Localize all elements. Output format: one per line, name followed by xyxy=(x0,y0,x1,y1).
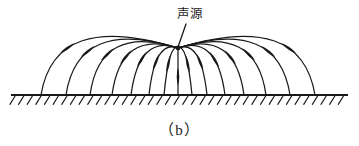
ray-arrowhead xyxy=(137,52,146,67)
ground-hatch-mark xyxy=(62,95,68,104)
ground-hatch-mark xyxy=(209,95,215,104)
ground-hatch-mark xyxy=(122,95,128,104)
ray-arrowhead xyxy=(261,46,275,57)
ray-arrowhead xyxy=(210,52,219,67)
ground-hatch-mark xyxy=(27,95,33,104)
ray-arrowhead xyxy=(197,53,204,70)
ray-arrowhead xyxy=(186,55,190,73)
sound-ray-path xyxy=(178,36,315,95)
ground-hatch-mark xyxy=(191,95,197,104)
ground-hatch-mark xyxy=(10,95,16,104)
ground-hatch-mark xyxy=(96,95,102,104)
ray-arrowhead xyxy=(177,67,180,85)
sound-ray-path xyxy=(66,39,178,95)
ground-hatch-mark xyxy=(140,95,146,104)
ray-arrowhead xyxy=(281,43,296,53)
ray-arrowhead xyxy=(81,46,95,57)
ground-hatch-mark xyxy=(295,95,301,104)
sound-ray-path xyxy=(164,48,178,95)
ground-hatch-mark xyxy=(261,95,267,104)
ground-hatch-mark xyxy=(330,95,336,104)
ground-hatch-mark xyxy=(200,95,206,104)
ray-arrowhead xyxy=(60,43,75,53)
ground-hatch-mark xyxy=(157,95,163,104)
ground-hatch-mark xyxy=(70,95,76,104)
ground-hatch-mark xyxy=(252,95,258,104)
sound-ray-path xyxy=(178,48,192,95)
ground-hatch-mark xyxy=(338,95,344,104)
ground-hatch-mark xyxy=(269,95,275,104)
sound-ray-path xyxy=(41,36,178,95)
figure-caption: （b） xyxy=(0,118,359,139)
ground-hatch-mark xyxy=(114,95,120,104)
ground-hatch-mark xyxy=(131,95,137,104)
ray-arrowhead xyxy=(153,53,160,70)
sound-source-label: 声源 xyxy=(160,6,220,21)
ground-hatch-mark xyxy=(53,95,59,104)
ground-hatch-mark xyxy=(243,95,249,104)
ground-hatch-mark xyxy=(278,95,284,104)
ray-arrowhead xyxy=(101,48,114,61)
ground-hatch-mark xyxy=(217,95,223,104)
ground-hatch-mark xyxy=(19,95,25,104)
ground-plane xyxy=(10,95,348,104)
ray-arrowhead xyxy=(120,50,131,64)
ground-hatch-mark xyxy=(165,95,171,104)
ground-hatch-mark xyxy=(105,95,111,104)
ground-hatch-mark xyxy=(321,95,327,104)
ground-hatch-mark xyxy=(312,95,318,104)
sound-ray-path xyxy=(178,47,207,95)
sound-source-point xyxy=(176,46,181,51)
ground-hatch-mark xyxy=(235,95,241,104)
ground-hatch-mark xyxy=(44,95,50,104)
ground-hatch-mark xyxy=(183,95,189,104)
ground-hatch-mark xyxy=(226,95,232,104)
ground-hatch-mark xyxy=(286,95,292,104)
sound-ray-path xyxy=(178,39,290,95)
ray-arrowhead xyxy=(166,55,170,73)
ground-hatch-mark xyxy=(148,95,154,104)
source-label-leader-line xyxy=(178,24,186,47)
ray-arrowhead xyxy=(225,50,236,64)
sound-ray-path xyxy=(178,44,244,95)
ground-hatch-mark xyxy=(304,95,310,104)
figure-container: 声源 （b） xyxy=(0,0,359,146)
ground-hatch-mark xyxy=(79,95,85,104)
ground-hatch-mark xyxy=(36,95,42,104)
ground-hatch-mark xyxy=(88,95,94,104)
sound-ray-path xyxy=(149,47,178,95)
sound-ray-path xyxy=(112,44,178,95)
ray-arrowhead xyxy=(242,48,255,61)
ground-hatch-mark xyxy=(174,95,180,104)
